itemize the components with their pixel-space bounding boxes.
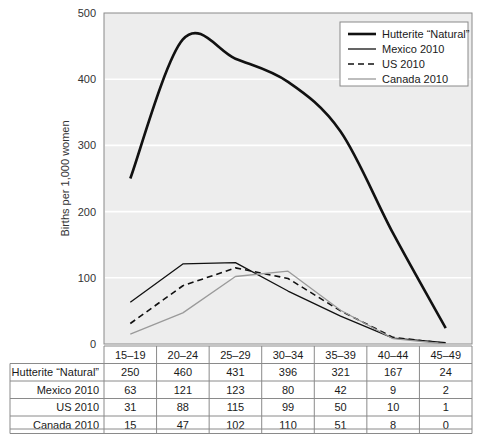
table-header-2: 25–29 [220,349,251,361]
table-row-label-0: Hutterite “Natural” [12,366,100,378]
y-tick-label-300: 300 [78,139,96,151]
y-axis-ticks: 0100200300400500 [78,7,96,350]
table-cell-2-1: 88 [177,401,189,413]
table-cell-2-2: 115 [227,401,245,413]
y-axis-title: Births per 1,000 women [59,120,71,236]
table-cell-2-3: 99 [282,401,294,413]
legend: Hutterite “Natural”Mexico 2010US 2010Can… [340,22,470,86]
table-cell-1-3: 80 [282,384,294,396]
table-cell-0-3: 396 [279,366,297,378]
table-cell-0-6: 24 [440,366,452,378]
table-row-label-2: US 2010 [56,401,99,413]
table-cell-0-2: 431 [226,366,244,378]
table-cell-0-0: 250 [121,366,139,378]
table-cell-2-5: 10 [387,401,399,413]
table-cell-0-4: 321 [331,366,349,378]
table-header-6: 45–49 [430,349,461,361]
table-cell-1-5: 9 [390,384,396,396]
y-tick-label-400: 400 [78,73,96,85]
y-tick-label-500: 500 [78,7,96,19]
table-cell-0-5: 167 [384,366,402,378]
table-cell-1-1: 121 [174,384,192,396]
table-cell-0-1: 460 [174,366,192,378]
table-cell-2-6: 1 [443,401,449,413]
table-cell-2-4: 50 [334,401,346,413]
data-table: 15–1920–2425–2930–3435–3940–4445–49Hutte… [10,346,472,434]
legend-label-3: Canada 2010 [382,73,448,85]
table-header-0: 15–19 [115,349,146,361]
table-header-1: 20–24 [168,349,199,361]
table-cell-1-6: 2 [443,384,449,396]
table-cell-1-0: 63 [124,384,136,396]
table-cell-1-2: 123 [226,384,244,396]
fertility-rate-chart: 0100200300400500Births per 1,000 womenHu… [0,0,486,439]
table-cell-1-4: 42 [334,384,346,396]
legend-label-2: US 2010 [382,58,425,70]
legend-label-0: Hutterite “Natural” [382,28,470,40]
table-header-4: 35–39 [325,349,356,361]
y-tick-label-100: 100 [78,272,96,284]
table-cell-2-0: 31 [124,401,136,413]
figure-container: 0100200300400500Births per 1,000 womenHu… [0,0,486,439]
legend-label-1: Mexico 2010 [382,43,444,55]
y-tick-label-0: 0 [90,338,96,350]
table-row-label-1: Mexico 2010 [37,384,99,396]
y-tick-label-200: 200 [78,206,96,218]
table-header-5: 40–44 [378,349,409,361]
table-header-3: 30–34 [273,349,304,361]
